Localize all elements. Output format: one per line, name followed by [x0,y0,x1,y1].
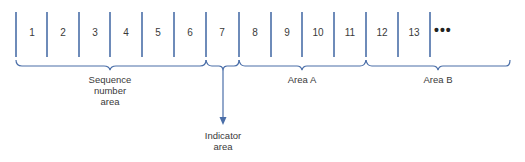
cell-10: 10 [302,27,334,39]
label-indicator-area: Indicator area [193,130,253,152]
brace-indicator-area [206,60,239,69]
record-layout-diagram: 1 2 3 4 5 6 7 8 9 10 11 12 13 ••• Sequen… [0,0,525,162]
cell-8: 8 [239,27,271,39]
arrow-down-icon [220,117,227,125]
brace-sequence-number-area [16,60,206,70]
cell-13: 13 [398,27,430,39]
label-area-b: Area B [408,74,468,85]
cell-1: 1 [16,27,48,39]
continuation-ellipsis: ••• [434,22,452,38]
cell-6: 6 [174,27,206,39]
label-area-a: Area A [272,74,332,85]
cell-11: 11 [334,27,366,39]
cell-7: 7 [206,27,238,39]
label-sequence-number-area: Sequence number area [80,74,140,107]
cell-4: 4 [110,27,142,39]
cell-12: 12 [366,27,398,39]
brace-area-b [366,60,510,70]
cell-2: 2 [47,27,79,39]
cell-9: 9 [271,27,303,39]
cell-5: 5 [142,27,174,39]
brace-area-a [239,60,366,70]
cell-3: 3 [79,27,111,39]
